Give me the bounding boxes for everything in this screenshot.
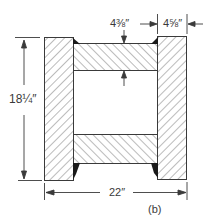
height-label: 18¼″ [9,93,37,105]
figure-label: (b) [148,204,161,215]
left-side-plate [45,38,74,181]
bottom-cross-plate [74,135,158,164]
box-section-drawing [0,0,214,220]
width-label: 22″ [109,187,125,198]
right-side-plate [158,37,187,180]
height-dimension [15,38,42,181]
web-thickness-label: 4⅝″ [163,18,182,29]
flange-thickness-label: 4⅜″ [110,18,129,29]
top-cross-plate [74,44,158,71]
